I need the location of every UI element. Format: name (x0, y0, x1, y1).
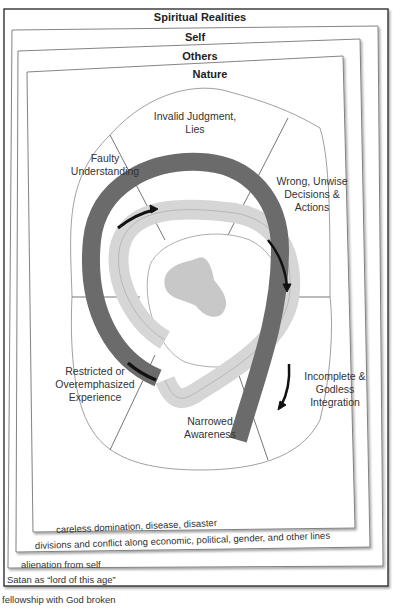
caption-self: Satan as “lord of this age” (7, 574, 116, 585)
title-spiritual-realities: Spiritual Realities (120, 11, 280, 23)
caption-spiritual: fellowship with God broken (2, 594, 116, 605)
label-incomplete-integration: Incomplete &GodlessIntegration (290, 370, 380, 409)
title-nature: Nature (170, 68, 250, 80)
label-narrowed-awareness: NarrowedAwareness (170, 415, 250, 441)
label-invalid-judgment: Invalid Judgment,Lies (130, 110, 260, 136)
label-restricted-experience: Restricted orOveremphasizedExperience (40, 365, 150, 404)
title-self: Self (160, 31, 230, 43)
label-faulty-understanding: FaultyUnderstanding (50, 152, 160, 178)
caption-others: alienation from self (21, 559, 101, 570)
title-others: Others (160, 50, 240, 62)
label-wrong-decisions: Wrong, UnwiseDecisions &Actions (262, 175, 362, 214)
